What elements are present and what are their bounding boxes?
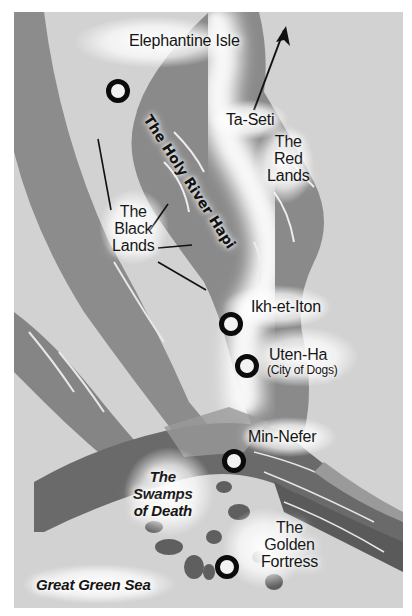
golden-fortress-line-2: Golden <box>261 536 318 553</box>
map: The Holy River Hapi Elephantine Isle Ikh… <box>14 12 403 608</box>
region-label-black-lands: The Black Lands <box>112 203 155 254</box>
city-subtitle-uten-ha: (City of Dogs) <box>267 364 338 377</box>
city-label-ikh-et-iton: Ikh-et-Iton <box>251 298 321 315</box>
swamps-line-3: of Death <box>133 502 193 519</box>
region-label-great-green-sea: Great Green Sea <box>36 576 151 593</box>
city-marker-elephantine[interactable] <box>106 79 130 103</box>
city-label-uten-ha: Uten-Ha <box>269 346 327 363</box>
swamps-line-1: The <box>133 468 193 485</box>
red-lands-line-1: The <box>267 133 310 150</box>
city-marker-golden-fortress[interactable] <box>215 555 239 579</box>
black-lands-line-2: Black <box>112 220 155 237</box>
region-label-ta-seti: Ta-Seti <box>226 111 274 128</box>
city-marker-min-nefer[interactable] <box>222 449 246 473</box>
city-marker-uten-ha[interactable] <box>235 354 259 378</box>
map-terrain <box>14 12 403 608</box>
region-label-red-lands: The Red Lands <box>267 133 310 184</box>
black-lands-line-3: Lands <box>112 237 155 254</box>
city-label-golden-fortress: The Golden Fortress <box>261 519 318 570</box>
city-marker-ikh-et-iton[interactable] <box>219 312 243 336</box>
golden-fortress-line-3: Fortress <box>261 553 318 570</box>
red-lands-line-3: Lands <box>267 167 310 184</box>
region-label-swamps: The Swamps of Death <box>133 468 193 519</box>
swamps-line-2: Swamps <box>133 485 193 502</box>
red-lands-line-2: Red <box>267 150 310 167</box>
city-label-elephantine: Elephantine Isle <box>129 32 240 49</box>
black-lands-line-1: The <box>112 203 155 220</box>
city-label-min-nefer: Min-Nefer <box>248 428 316 445</box>
golden-fortress-line-1: The <box>261 519 318 536</box>
